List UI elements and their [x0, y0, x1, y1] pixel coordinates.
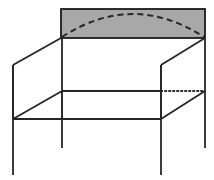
top-front-left-diagonal	[13, 38, 61, 65]
lower-shelf-right-diagonal	[161, 91, 205, 119]
wireframe-drawing	[0, 0, 214, 180]
diagram-canvas	[0, 0, 214, 180]
top-front-right-diagonal	[161, 38, 205, 65]
lower-shelf-left-diagonal	[13, 91, 62, 119]
solid-line-group	[13, 38, 205, 175]
